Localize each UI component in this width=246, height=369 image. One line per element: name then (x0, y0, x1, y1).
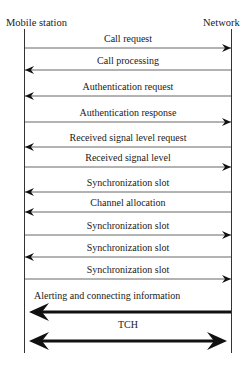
message-label: Synchronization slot (25, 220, 231, 231)
message-arrow (25, 188, 231, 196)
message-label: Synchronization slot (25, 242, 231, 253)
message-label: Call processing (25, 55, 231, 66)
message-arrow (25, 92, 231, 100)
message-label: Call request (25, 33, 231, 44)
message-label: Authentication request (25, 81, 231, 92)
message-arrow (25, 253, 231, 261)
message-label: Received signal level request (25, 132, 231, 143)
message-label: Channel allocation (25, 197, 231, 208)
message-label: Received signal level (25, 152, 231, 163)
message-arrow (25, 275, 231, 283)
message-arrow (25, 44, 231, 52)
message-arrow (25, 143, 231, 151)
message-label: Authentication response (25, 107, 231, 118)
message-arrow (29, 332, 227, 350)
message-arrow (25, 66, 231, 74)
message-label: TCH (25, 319, 231, 330)
message-label: Synchronization slot (25, 177, 231, 188)
message-arrow (25, 118, 231, 126)
message-arrow (25, 208, 231, 216)
message-label: Synchronization slot (25, 264, 231, 275)
message-arrow (25, 163, 231, 171)
message-label: Alerting and connecting information (34, 290, 180, 301)
message-arrow (25, 231, 231, 239)
